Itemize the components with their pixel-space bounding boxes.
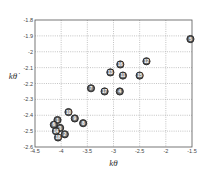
y-tick-label: -2.2 xyxy=(24,81,33,87)
data-point-label: 13 xyxy=(108,70,114,75)
y-tick-label: -1.9 xyxy=(24,33,33,39)
x-tick-label: -3.5 xyxy=(83,148,92,154)
scatter-chart: -4.5-4-3.5-3-2.5-2-1.5-1.8-1.9-2-2.1-2.2… xyxy=(0,0,205,173)
data-point-label: 18 xyxy=(56,135,62,140)
y-tick-label: -1.8 xyxy=(24,17,33,23)
x-tick-label: -3 xyxy=(111,148,116,154)
data-point-label: 16 xyxy=(118,62,124,67)
y-tick-label: -2 xyxy=(28,49,33,55)
y-tick-label: -2.1 xyxy=(24,65,33,71)
x-axis-label: kθ xyxy=(109,158,118,168)
y-tick-label: -2.6 xyxy=(24,144,33,150)
x-tick-label: -4 xyxy=(59,148,64,154)
data-point-label: 10 xyxy=(66,110,72,115)
data-point-label: 15 xyxy=(137,73,143,78)
x-tick-label: -2 xyxy=(163,148,168,154)
data-point-label: 11 xyxy=(121,73,126,78)
y-tick-label: -2.3 xyxy=(24,96,33,102)
data-point-label: 17 xyxy=(102,89,108,94)
y-tick-label: -2.5 xyxy=(24,128,33,134)
y-tick-label: -2.4 xyxy=(24,112,33,118)
y-axis-label: kθ̇ xyxy=(9,71,20,81)
data-point-label: 12 xyxy=(144,59,150,64)
x-tick-label: -2.5 xyxy=(135,148,144,154)
data-point-label: 14 xyxy=(53,129,59,134)
x-tick-label: -1.5 xyxy=(187,148,196,154)
